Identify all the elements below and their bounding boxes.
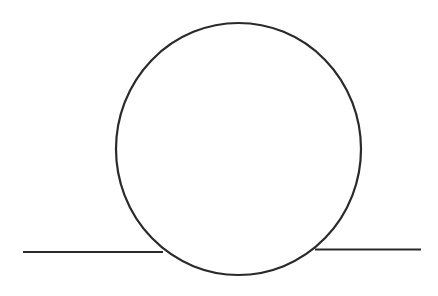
diagram-canvas (0, 0, 438, 296)
circle-shape (116, 23, 361, 275)
diagram-svg (0, 0, 438, 296)
